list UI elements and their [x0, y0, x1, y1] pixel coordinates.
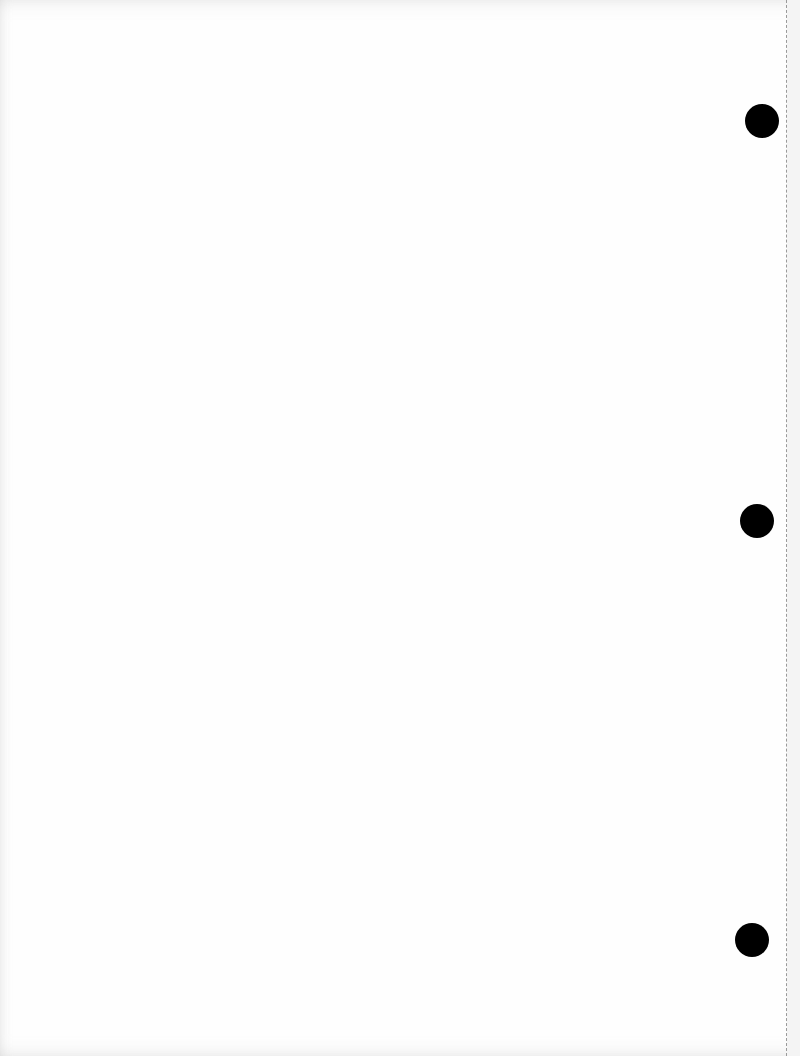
punch-hole-top: [745, 104, 779, 138]
page-edge-strip: [787, 0, 800, 1056]
punch-hole-bottom: [735, 923, 769, 957]
blank-page: [0, 0, 800, 1056]
perforation-line: [786, 0, 787, 1056]
punch-hole-middle: [740, 504, 774, 538]
